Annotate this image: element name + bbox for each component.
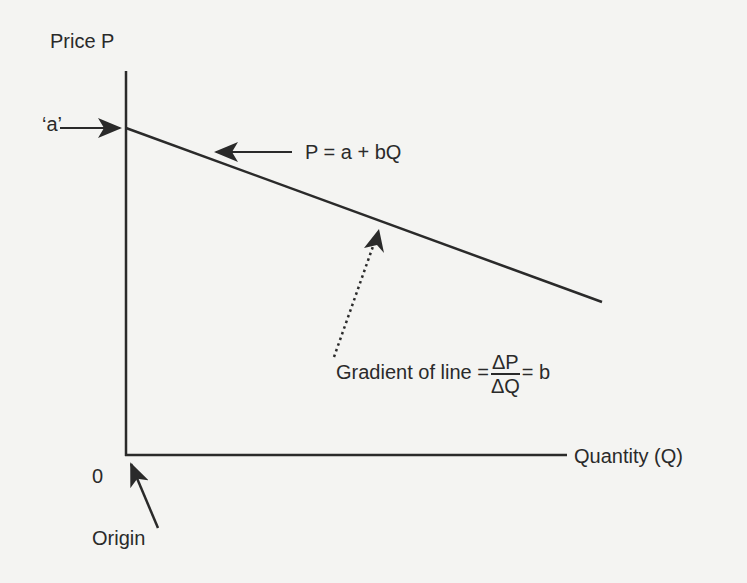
gradient-fraction: ΔPΔQ — [491, 352, 520, 396]
diagram-canvas — [0, 0, 747, 583]
gradient-suffix: = b — [522, 361, 550, 383]
x-axis-label: Quantity (Q) — [574, 446, 683, 466]
gradient-label: Gradient of line =ΔPΔQ= b — [336, 352, 550, 396]
origin-zero-label: 0 — [92, 466, 103, 486]
equation-label: P = a + bQ — [305, 142, 401, 162]
origin-arrow-icon — [131, 464, 158, 528]
y-axis-label: Price P — [50, 31, 114, 51]
origin-label: Origin — [92, 528, 145, 548]
intercept-label: ‘a’ — [42, 114, 62, 134]
gradient-arrowhead-icon — [364, 229, 384, 253]
gradient-denominator: ΔQ — [491, 375, 520, 396]
gradient-prefix: Gradient of line = — [336, 361, 489, 383]
gradient-numerator: ΔP — [491, 352, 520, 375]
gradient-dotted-arrow-icon — [334, 235, 377, 357]
